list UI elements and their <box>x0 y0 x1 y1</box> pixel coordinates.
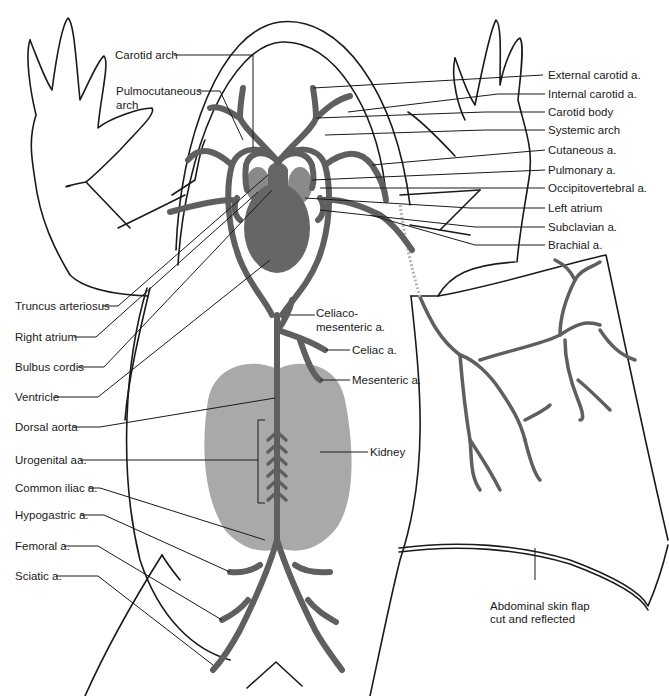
label-abdominal-skin-flap: Abdominal skin flapcut and reflected <box>490 600 590 625</box>
frog-arterial-system-diagram: Carotid arch Pulmocutaneousarch Truncus … <box>0 0 669 696</box>
label-external-carotid-a: External carotid a. <box>548 69 641 81</box>
label-pulmocutaneous-arch: Pulmocutaneousarch <box>116 85 202 111</box>
label-internal-carotid-a: Internal carotid a. <box>548 88 637 100</box>
label-bulbus-cordis: Bulbus cordis <box>15 361 84 373</box>
label-truncus-arteriosus: Truncus arteriosus <box>15 300 110 312</box>
label-occipitovertebral-a: Occipitovertebral a. <box>548 182 647 194</box>
label-femoral-a: Femoral a. <box>15 540 70 552</box>
label-celiac-a: Celiac a. <box>352 344 397 356</box>
label-hypogastric-a: Hypogastric a. <box>15 509 89 521</box>
label-kidney: Kidney <box>370 446 405 458</box>
label-carotid-arch: Carotid arch <box>115 49 178 61</box>
label-left-atrium: Left atrium <box>548 202 602 214</box>
label-celiacomesenteric-a: Celiaco-mesenteric a. <box>316 307 385 333</box>
label-cutaneous-a: Cutaneous a. <box>548 144 616 156</box>
label-subclavian-a: Subclavian a. <box>548 221 617 233</box>
label-carotid-body: Carotid body <box>548 106 613 118</box>
label-sciatic-a: Sciatic a. <box>15 570 62 582</box>
label-pulmonary-a: Pulmonary a. <box>548 164 616 176</box>
abdominal-skin-flap <box>399 255 668 610</box>
label-common-iliac-a: Common iliac a. <box>15 482 97 494</box>
label-systemic-arch: Systemic arch <box>548 124 620 136</box>
heart <box>244 163 312 274</box>
label-urogenital-aa: Urogenital aa. <box>15 454 87 466</box>
label-brachial-a: Brachial a. <box>548 239 602 251</box>
label-right-atrium: Right atrium <box>15 331 77 343</box>
label-dorsal-aorta: Dorsal aorta <box>15 421 78 433</box>
truncus-shape <box>268 163 288 201</box>
label-ventricle: Ventricle <box>15 391 59 403</box>
label-mesenteric-a: Mesenteric a. <box>352 374 421 386</box>
